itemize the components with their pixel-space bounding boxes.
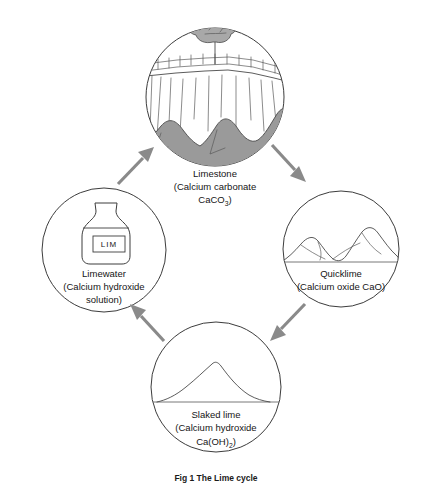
arrow-quicklime-to-slaked-lime — [270, 304, 305, 341]
limestone-label-line2: (Calcium carbonate — [174, 181, 256, 192]
arrow-limewater-to-limestone — [118, 147, 154, 184]
limestone-label-line1: Limestone — [193, 168, 237, 179]
bottle-label-text: LIM — [101, 240, 118, 249]
quicklime-label-line1: Quicklime — [320, 268, 362, 279]
limestone-label: Limestone (Calcium carbonate CaCO3) — [174, 168, 256, 207]
quicklime-label-line2: (Calcium oxide CaO) — [297, 281, 385, 292]
arrow-limestone-to-quicklime — [272, 145, 306, 182]
slaked-lime-label-line1: Slaked lime — [191, 409, 240, 420]
limewater-label-line1: Limewater — [82, 268, 126, 279]
slaked-lime-label-line2: (Calcium hydroxide — [175, 422, 256, 433]
limestone-formula: CaCO3) — [198, 194, 231, 207]
node-limestone — [134, 7, 296, 176]
arrow-slaked-lime-to-limewater — [130, 304, 164, 341]
limewater-label-line3: solution) — [86, 294, 122, 305]
lime-cycle-diagram: Limestone (Calcium carbonate CaCO3) Quic… — [0, 0, 433, 485]
lime-cycle-figure: Limestone (Calcium carbonate CaCO3) Quic… — [0, 0, 433, 485]
figure-caption: Fig 1 The Lime cycle — [174, 473, 257, 483]
limewater-label-line2: (Calcium hydroxide — [63, 281, 144, 292]
